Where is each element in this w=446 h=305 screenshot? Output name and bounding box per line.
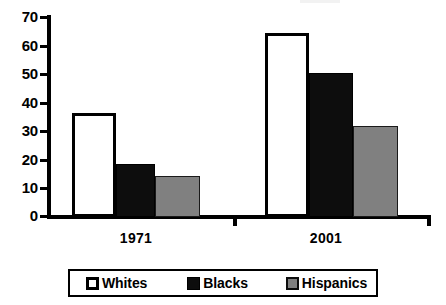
legend-label-hispanics: Hispanics — [302, 275, 367, 291]
legend-swatch-blacks-icon — [187, 277, 200, 290]
bar-2001-hispanics[interactable] — [353, 126, 398, 217]
bar-1971-blacks[interactable] — [116, 164, 155, 217]
bar-1971-whites[interactable] — [72, 113, 116, 217]
legend-swatch-hispanics-icon — [286, 277, 299, 290]
bars-layer — [0, 0, 446, 217]
chart-legend: Whites Blacks Hispanics — [68, 269, 378, 297]
x-tick-axis-end — [427, 219, 431, 226]
legend-item-whites[interactable]: Whites — [86, 271, 147, 295]
x-tick-group-divider — [233, 219, 237, 226]
legend-item-hispanics[interactable]: Hispanics — [286, 271, 367, 295]
x-axis-label-1971: 1971 — [106, 230, 166, 246]
x-axis-label-2001: 2001 — [296, 230, 356, 246]
legend-label-blacks: Blacks — [203, 275, 248, 291]
plot-area: 70 60 50 40 30 20 10 0 — [0, 0, 446, 222]
legend-label-whites: Whites — [102, 275, 147, 291]
bar-chart: 70 60 50 40 30 20 10 0 — [0, 0, 446, 305]
bar-2001-blacks[interactable] — [309, 73, 353, 217]
bar-2001-whites[interactable] — [265, 33, 309, 217]
bar-1971-hispanics[interactable] — [155, 176, 200, 217]
legend-swatch-whites-icon — [86, 277, 99, 290]
legend-item-blacks[interactable]: Blacks — [187, 271, 248, 295]
